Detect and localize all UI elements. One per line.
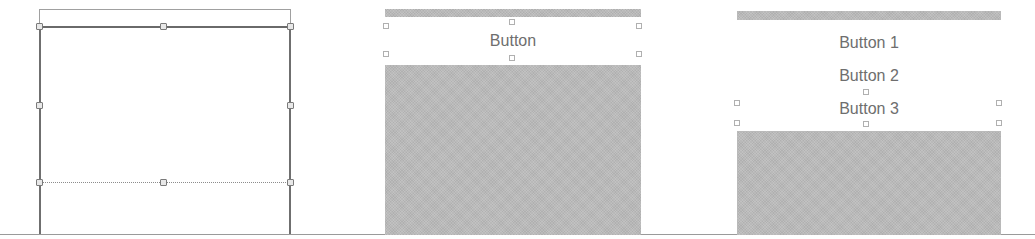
handle-bottom[interactable]	[509, 55, 515, 61]
resize-handle-bottom-left[interactable]	[36, 179, 43, 186]
panel-three-button-stack: Button 1 Button 2 Button 3	[737, 11, 1001, 235]
handle-right-bottom[interactable]	[996, 120, 1002, 126]
handle-left-bottom[interactable]	[383, 51, 389, 57]
stack-view-band[interactable]: Button 1 Button 2 Button 3	[737, 20, 1001, 131]
button-label[interactable]: Button	[385, 32, 641, 50]
handle-top[interactable]	[509, 19, 515, 25]
handle-right-top[interactable]	[996, 100, 1002, 106]
button-2-label[interactable]: Button 2	[737, 67, 1001, 85]
left-vertical-edge	[39, 26, 41, 234]
handle-left-top[interactable]	[734, 100, 740, 106]
handle-center[interactable]	[863, 89, 869, 95]
button-3-label[interactable]: Button 3	[737, 100, 1001, 118]
right-vertical-edge	[289, 26, 291, 234]
resize-handle-bottom-right[interactable]	[287, 179, 294, 186]
handle-left-top[interactable]	[383, 23, 389, 29]
resize-handle-middle-right[interactable]	[287, 102, 294, 109]
handle-right-bottom[interactable]	[636, 51, 642, 57]
handle-right-top[interactable]	[636, 23, 642, 29]
resize-handle-top-right[interactable]	[287, 23, 294, 30]
panel-single-button-stack: Button	[385, 9, 641, 235]
stack-view-band[interactable]: Button	[385, 17, 641, 65]
handle-bottom[interactable]	[863, 121, 869, 127]
panel-empty-stack-view	[0, 0, 330, 239]
handle-left-bottom[interactable]	[734, 120, 740, 126]
resize-handle-top-center[interactable]	[160, 23, 167, 30]
button-1-label[interactable]: Button 1	[737, 34, 1001, 52]
resize-handle-top-left[interactable]	[36, 23, 43, 30]
resize-handle-middle-left[interactable]	[36, 102, 43, 109]
frame-top-line	[39, 9, 291, 10]
resize-handle-bottom-center[interactable]	[160, 179, 167, 186]
